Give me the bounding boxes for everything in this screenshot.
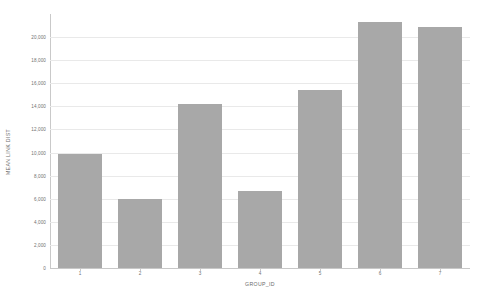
bar[interactable] xyxy=(58,154,102,268)
plot-area xyxy=(50,14,470,268)
gridline xyxy=(50,129,470,130)
y-axis-tick-label: 14,000 xyxy=(2,104,46,109)
x-axis-tick-label: 5 xyxy=(319,271,322,276)
y-axis-tick-label: 10,000 xyxy=(2,150,46,155)
y-axis-tick-label: 20,000 xyxy=(2,35,46,40)
x-axis-tick-label: 7 xyxy=(439,271,442,276)
bar[interactable] xyxy=(118,199,162,268)
x-axis-title: GROUP_ID xyxy=(50,281,470,287)
y-axis-tick-label: 6,000 xyxy=(2,196,46,201)
y-axis-tick-label: 0 xyxy=(2,266,46,271)
x-axis-tick-label: 6 xyxy=(379,271,382,276)
y-axis-tick-label: 4,000 xyxy=(2,219,46,224)
bar[interactable] xyxy=(238,191,282,268)
gridline xyxy=(50,83,470,84)
gridline xyxy=(50,153,470,154)
bar-chart: MEAN LINK DIST 02,0004,0006,0008,00010,0… xyxy=(0,0,477,304)
y-axis-tick-label: 2,000 xyxy=(2,242,46,247)
bar[interactable] xyxy=(358,22,402,268)
bar[interactable] xyxy=(298,90,342,268)
gridline xyxy=(50,37,470,38)
gridline xyxy=(50,106,470,107)
y-axis-tick-label: 16,000 xyxy=(2,81,46,86)
x-axis-tick-label: 4 xyxy=(259,271,262,276)
x-axis-tick-labels: 1234567 xyxy=(50,269,470,281)
bar[interactable] xyxy=(418,27,462,268)
x-axis-tick-label: 2 xyxy=(139,271,142,276)
y-axis-tick-labels: 02,0004,0006,0008,00010,00012,00014,0001… xyxy=(0,14,46,268)
x-axis-tick-label: 1 xyxy=(79,271,82,276)
x-axis-tick-label: 3 xyxy=(199,271,202,276)
bar[interactable] xyxy=(178,104,222,268)
y-axis-tick-label: 8,000 xyxy=(2,173,46,178)
y-axis-tick-label: 18,000 xyxy=(2,58,46,63)
gridline xyxy=(50,176,470,177)
y-axis-tick-label: 12,000 xyxy=(2,127,46,132)
gridline xyxy=(50,60,470,61)
